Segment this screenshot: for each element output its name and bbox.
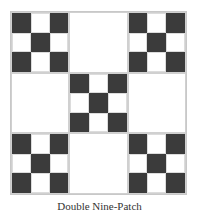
light-square	[147, 173, 166, 193]
light-square	[31, 134, 50, 154]
nine-patch-block	[11, 12, 69, 73]
dark-square	[147, 33, 166, 53]
light-square	[108, 93, 127, 113]
plain-block	[69, 12, 127, 73]
light-square	[50, 33, 69, 53]
plain-block	[69, 133, 127, 194]
nine-patch-block	[69, 73, 127, 134]
dark-square	[129, 134, 148, 154]
light-square	[31, 173, 50, 193]
light-square	[147, 52, 166, 72]
nine-patch-block	[11, 133, 69, 194]
light-square	[31, 13, 50, 33]
light-square	[129, 33, 148, 53]
figure-caption: Double Nine-Patch	[0, 200, 199, 212]
dark-square	[70, 113, 89, 133]
dark-square	[12, 173, 31, 193]
dark-square	[89, 93, 108, 113]
light-square	[166, 33, 185, 53]
dark-square	[12, 134, 31, 154]
dark-square	[166, 52, 185, 72]
dark-square	[12, 13, 31, 33]
dark-square	[31, 33, 50, 53]
dark-square	[129, 13, 148, 33]
dark-square	[108, 74, 127, 94]
light-square	[12, 33, 31, 53]
dark-square	[129, 173, 148, 193]
light-square	[147, 134, 166, 154]
light-square	[50, 154, 69, 174]
quilt-diagram	[10, 11, 187, 195]
dark-square	[166, 13, 185, 33]
dark-square	[50, 52, 69, 72]
nine-patch-block	[128, 12, 186, 73]
light-square	[70, 93, 89, 113]
light-square	[89, 113, 108, 133]
dark-square	[147, 154, 166, 174]
light-square	[129, 154, 148, 174]
plain-block	[128, 73, 186, 134]
dark-square	[31, 154, 50, 174]
dark-square	[50, 173, 69, 193]
light-square	[89, 74, 108, 94]
dark-square	[70, 74, 89, 94]
light-square	[12, 154, 31, 174]
light-square	[31, 52, 50, 72]
nine-patch-block	[128, 133, 186, 194]
light-square	[166, 154, 185, 174]
dark-square	[50, 134, 69, 154]
dark-square	[166, 134, 185, 154]
dark-square	[166, 173, 185, 193]
dark-square	[129, 52, 148, 72]
dark-square	[12, 52, 31, 72]
plain-block	[11, 73, 69, 134]
light-square	[147, 13, 166, 33]
dark-square	[108, 113, 127, 133]
dark-square	[50, 13, 69, 33]
